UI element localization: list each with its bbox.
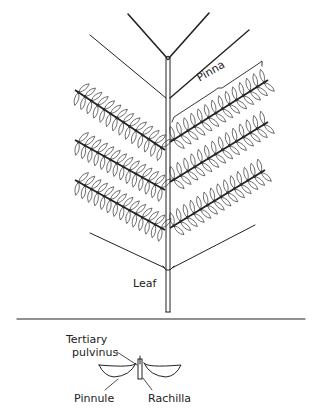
pinnule bbox=[209, 158, 219, 167]
pinnule bbox=[197, 109, 202, 122]
pinnule bbox=[239, 83, 244, 96]
pinnule bbox=[136, 122, 147, 131]
label-pinnule: Pinnule bbox=[74, 393, 114, 405]
pinnule bbox=[241, 185, 251, 194]
label-tertiary: Tertiary bbox=[66, 334, 107, 346]
pinnule bbox=[181, 135, 191, 144]
pinnule bbox=[158, 228, 162, 241]
pinnule bbox=[132, 174, 136, 187]
pinna bbox=[170, 111, 275, 188]
pinnule bbox=[255, 176, 265, 185]
label-rachilla: Rachilla bbox=[148, 393, 191, 405]
pinnule bbox=[211, 100, 216, 113]
pinnule bbox=[264, 83, 274, 92]
pinnule bbox=[253, 116, 258, 129]
pinnule bbox=[151, 225, 155, 238]
pinnule bbox=[157, 148, 162, 161]
pinnule bbox=[145, 221, 150, 234]
pinnule bbox=[225, 133, 230, 146]
pinnule bbox=[264, 124, 274, 133]
pinnule bbox=[243, 137, 253, 146]
pinnule bbox=[248, 181, 258, 190]
pinnule bbox=[202, 122, 212, 131]
label-leaf: Leaf bbox=[133, 278, 156, 290]
pinnule bbox=[236, 141, 246, 150]
pinnule bbox=[100, 196, 104, 209]
leader-pinnule bbox=[105, 379, 118, 390]
pinnule bbox=[113, 203, 117, 216]
top-fork-left bbox=[128, 14, 167, 58]
label-pulvinus: pulvinus bbox=[72, 347, 118, 359]
pinnule bbox=[204, 105, 209, 118]
pinnule bbox=[130, 118, 141, 127]
pinnule bbox=[191, 113, 196, 126]
pinnule bbox=[149, 131, 160, 140]
pinnule bbox=[119, 122, 124, 135]
pinnule bbox=[151, 185, 155, 198]
pinnule bbox=[229, 146, 239, 155]
pinnule bbox=[198, 149, 203, 162]
leader-rachilla bbox=[143, 378, 152, 390]
pinnule-left bbox=[99, 363, 136, 377]
pinnule bbox=[158, 188, 162, 201]
pinnule-right bbox=[144, 363, 181, 377]
pinnule bbox=[104, 101, 115, 110]
pinnule bbox=[113, 163, 117, 176]
pinnule bbox=[232, 87, 237, 100]
pinnule bbox=[195, 167, 205, 176]
pinnule bbox=[244, 167, 249, 180]
pinnule bbox=[218, 137, 223, 150]
pinnule bbox=[250, 163, 255, 176]
pinnule bbox=[106, 114, 111, 127]
pinnule bbox=[94, 153, 98, 166]
pinna bbox=[170, 159, 272, 235]
pinnule bbox=[261, 172, 271, 181]
pinna bbox=[75, 173, 171, 242]
pinnule bbox=[234, 189, 244, 198]
pinnule bbox=[237, 172, 242, 185]
pinnule bbox=[93, 105, 98, 118]
pinnule bbox=[228, 193, 238, 202]
pinnule bbox=[204, 145, 209, 158]
pinnule bbox=[139, 177, 143, 190]
pinnule bbox=[201, 209, 211, 218]
pinnule bbox=[188, 171, 198, 180]
pinnule bbox=[119, 207, 123, 220]
pinnule bbox=[81, 97, 86, 110]
top-fork-right bbox=[169, 13, 209, 58]
pinnule bbox=[132, 214, 136, 227]
pinnule bbox=[100, 156, 104, 169]
pinna bbox=[170, 69, 275, 148]
pinnule bbox=[138, 135, 143, 148]
pinnule bbox=[239, 124, 244, 137]
pinnule bbox=[250, 133, 260, 142]
pinnule bbox=[181, 175, 191, 184]
pinnule bbox=[81, 146, 85, 159]
pinnule bbox=[190, 200, 195, 213]
pinnule bbox=[181, 222, 191, 231]
pinnule bbox=[174, 140, 184, 149]
pinnule bbox=[210, 188, 215, 201]
pinnule bbox=[202, 163, 212, 172]
pinnule bbox=[75, 182, 79, 195]
pinnule bbox=[117, 109, 128, 118]
pinnule bbox=[203, 192, 208, 205]
pinnule bbox=[81, 186, 85, 199]
pinna bbox=[74, 84, 172, 161]
pinnule bbox=[184, 158, 189, 171]
pinnule bbox=[209, 118, 219, 127]
pinnule bbox=[174, 180, 184, 189]
pinnule bbox=[194, 213, 204, 222]
pinnule bbox=[207, 205, 217, 214]
pinnule bbox=[91, 92, 102, 101]
pinnule bbox=[184, 118, 189, 131]
pinnule bbox=[230, 176, 235, 189]
pinnule bbox=[176, 208, 181, 221]
pinnule bbox=[100, 109, 105, 122]
pinnule bbox=[75, 142, 79, 155]
pinnule bbox=[218, 96, 223, 109]
pinnule bbox=[126, 170, 131, 183]
pinnule bbox=[197, 196, 202, 209]
pinnule bbox=[211, 141, 216, 154]
pinnule bbox=[107, 200, 111, 213]
